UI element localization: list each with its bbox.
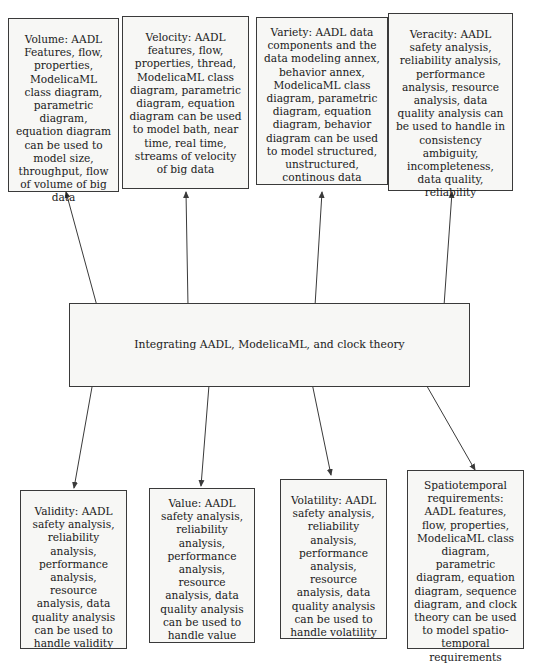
value-text: Value: AADL safety analysis, reliability… <box>156 497 248 642</box>
arrow-to-validity <box>74 387 92 488</box>
central-concept-box: Integrating AADL, ModelicaML, and clock … <box>69 303 470 387</box>
velocity-box: Velocity: AADL features, flow, propertie… <box>122 16 249 189</box>
volume-text: Volume: AADL Features, flow, properties,… <box>15 33 112 205</box>
variety-box: Variety: AADL data components and the da… <box>256 17 388 185</box>
central-concept-text: Integrating AADL, ModelicaML, and clock … <box>134 338 404 351</box>
arrow-to-volume <box>66 192 97 306</box>
veracity-box: Veracity: AADL safety analysis, reliabil… <box>388 13 513 191</box>
validity-text: Validity: AADL safety analysis, reliabil… <box>27 505 120 650</box>
volume-box: Volume: AADL Features, flow, properties,… <box>8 18 119 192</box>
volatility-text: Volatility: AADL safety analysis, reliab… <box>287 494 380 639</box>
velocity-text: Velocity: AADL features, flow, propertie… <box>129 31 242 176</box>
veracity-text: Veracity: AADL safety analysis, reliabil… <box>395 28 506 200</box>
arrow-to-veracity <box>444 192 452 306</box>
spatiotemporal-box: Spatiotemporal requirements: AADL featur… <box>407 470 524 649</box>
arrow-to-spatiotemporal <box>424 381 475 470</box>
arrow-to-volatility <box>312 383 331 475</box>
variety-text: Variety: AADL data components and the da… <box>263 26 381 184</box>
arrow-to-value <box>201 385 209 486</box>
value-box: Value: AADL safety analysis, reliability… <box>149 488 255 643</box>
validity-box: Validity: AADL safety analysis, reliabil… <box>20 490 127 649</box>
arrow-to-velocity <box>186 192 188 306</box>
spatiotemporal-text: Spatiotemporal requirements: AADL featur… <box>414 479 517 664</box>
volatility-box: Volatility: AADL safety analysis, reliab… <box>280 479 387 639</box>
arrow-to-variety <box>315 192 322 306</box>
